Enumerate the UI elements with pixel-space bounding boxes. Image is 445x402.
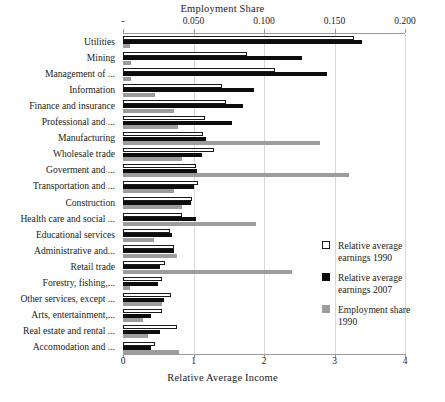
bar-share1990 <box>123 318 143 322</box>
bar-earn1990 <box>123 261 165 265</box>
bar-share1990 <box>123 141 320 145</box>
bar-share1990 <box>123 302 162 306</box>
top-axis-title: Employment Share <box>0 3 445 14</box>
axis-tick-top <box>335 29 336 33</box>
bar-earn1990 <box>123 164 196 168</box>
legend-label-line1: Relative average <box>338 240 442 252</box>
bar-share1990 <box>123 109 174 113</box>
gridline <box>264 34 265 354</box>
bar-earn2007 <box>123 40 362 44</box>
bar-earn1990 <box>123 100 226 104</box>
bar-earn2007 <box>123 217 196 221</box>
axis-tick-label-bottom: 0 <box>93 356 153 366</box>
bar-share1990 <box>123 61 131 65</box>
legend-label-line1: Employment share <box>338 304 442 316</box>
category-label: Arts, entertainment,... <box>0 310 115 320</box>
category-label: Real estate and rental ... <box>0 326 115 336</box>
bar-share1990 <box>123 286 130 290</box>
bar-share1990 <box>123 157 182 161</box>
axis-tick-label-top: 0.200 <box>375 16 435 26</box>
bar-earn2007 <box>123 201 191 205</box>
bar-share1990 <box>123 222 256 226</box>
bar-earn1990 <box>123 148 214 152</box>
axis-tick-label-bottom: 3 <box>305 356 365 366</box>
bar-earn2007 <box>123 314 151 318</box>
bar-earn1990 <box>123 293 171 297</box>
bar-earn1990 <box>123 325 177 329</box>
bar-earn1990 <box>123 277 162 281</box>
bar-earn2007 <box>123 330 160 334</box>
bar-earn1990 <box>123 197 192 201</box>
bar-share1990 <box>123 238 154 242</box>
bar-share1990 <box>123 334 148 338</box>
category-label: Other services, except ... <box>0 294 115 304</box>
category-label: Finance and insurance <box>0 101 115 111</box>
axis-tick-label-top: 0.150 <box>305 16 365 26</box>
bar-earn2007 <box>123 298 164 302</box>
axis-tick-top <box>194 29 195 33</box>
category-label: Wholesale trade <box>0 149 115 159</box>
bar-earn2007 <box>123 346 151 350</box>
legend-label-line2: 1990 <box>338 316 442 328</box>
bar-earn1990 <box>123 342 155 346</box>
legend-swatch-black <box>322 273 330 281</box>
category-label: Educational services <box>0 230 115 240</box>
bar-share1990 <box>123 254 177 258</box>
category-label: Mining <box>0 53 115 63</box>
chart-root: Employment Share UtilitiesMiningManageme… <box>0 0 445 402</box>
legend-swatch-gray <box>322 305 330 313</box>
bar-earn2007 <box>123 153 202 157</box>
bar-earn1990 <box>123 213 182 217</box>
bar-earn1990 <box>123 116 205 120</box>
bar-earn2007 <box>123 249 174 253</box>
bar-earn1990 <box>123 181 198 185</box>
bar-earn2007 <box>123 233 172 237</box>
bar-share1990 <box>123 350 179 354</box>
bar-earn1990 <box>123 36 354 40</box>
category-axis-labels: UtilitiesMiningManagement of ...Informat… <box>0 33 118 355</box>
bar-share1990 <box>123 270 292 274</box>
bar-earn2007 <box>123 137 206 141</box>
bar-share1990 <box>123 189 174 193</box>
axis-tick-label-top: - <box>93 16 153 26</box>
axis-tick-label-bottom: 2 <box>234 356 294 366</box>
category-label: Retail trade <box>0 262 115 272</box>
category-label: Accomodation and ... <box>0 342 115 352</box>
category-label: Management of ... <box>0 69 115 79</box>
category-label: Goverment and ... <box>0 165 115 175</box>
legend-label-line2: earnings 1990 <box>338 252 442 264</box>
bar-share1990 <box>123 93 155 97</box>
category-label: Transportation and ... <box>0 181 115 191</box>
legend-item: Employment share1990 <box>322 304 442 327</box>
bottom-axis-title: Relative Average Income <box>0 372 445 383</box>
bar-earn1990 <box>123 68 275 72</box>
axis-tick-label-top: 0.050 <box>164 16 224 26</box>
bar-share1990 <box>123 44 130 48</box>
legend-label-line1: Relative average <box>338 272 442 284</box>
bar-earn1990 <box>123 132 203 136</box>
bar-earn1990 <box>123 309 162 313</box>
axis-tick-top <box>405 29 406 33</box>
axis-tick-top <box>123 29 124 33</box>
bar-earn2007 <box>123 121 232 125</box>
axis-tick-label-bottom: 4 <box>375 356 435 366</box>
category-label: Construction <box>0 198 115 208</box>
legend-item: Relative averageearnings 1990 <box>322 240 442 263</box>
bar-earn2007 <box>123 169 197 173</box>
axis-tick-label-bottom: 1 <box>164 356 224 366</box>
bar-earn1990 <box>123 229 170 233</box>
legend-swatch-white <box>322 241 330 249</box>
category-label: Forestry, fishing,... <box>0 278 115 288</box>
bar-earn2007 <box>123 56 302 60</box>
bar-earn2007 <box>123 104 243 108</box>
category-label: Health care and social ... <box>0 214 115 224</box>
category-label: Professional and ... <box>0 117 115 127</box>
bar-earn1990 <box>123 84 222 88</box>
bar-share1990 <box>123 77 131 81</box>
bar-earn2007 <box>123 88 254 92</box>
axis-tick-label-top: 0.100 <box>234 16 294 26</box>
bar-earn1990 <box>123 245 174 249</box>
bar-earn2007 <box>123 282 158 286</box>
bar-earn1990 <box>123 52 247 56</box>
bar-share1990 <box>123 125 178 129</box>
